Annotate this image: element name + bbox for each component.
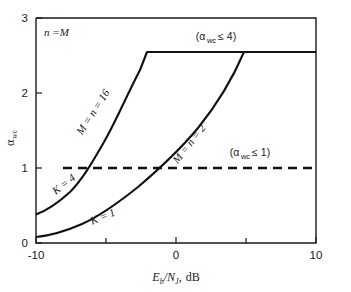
xlabel-comma: , <box>179 270 182 284</box>
le-4-text: ≤ 4) <box>218 30 236 42</box>
alpha-glyph-4: α <box>199 30 205 42</box>
y-axis-title: αwc <box>3 129 19 146</box>
le-1-text: ≤ 1) <box>252 146 270 158</box>
x-axis-title: Eb/NJ,dB <box>151 270 199 286</box>
figure-container: 0 1 2 3 -10 0 10 Eb/NJ,dB αwc n =M <box>0 0 351 292</box>
annotation-alpha-wc-le-4: (αwc≤ 4) <box>196 30 236 45</box>
svg-text:K = 4: K = 4 <box>49 171 78 197</box>
svg-text:K = 1: K = 1 <box>87 206 116 227</box>
curve-label-m-n-16: M = n = 16 <box>73 87 112 138</box>
y-tick-label-3: 3 <box>22 12 28 24</box>
svg-text:αwc: αwc <box>3 129 19 146</box>
alpha-glyph-1: α <box>233 146 239 158</box>
annotation-M: M <box>59 26 70 38</box>
curve-label-k-1: K = 1 <box>87 206 116 227</box>
x-tick-label-minus10: -10 <box>28 249 45 261</box>
annotation-alpha-wc-le-1: (αwc≤ 1) <box>230 146 270 161</box>
curve-label-k-4: K = 4 <box>49 171 78 197</box>
chart-canvas: 0 1 2 3 -10 0 10 Eb/NJ,dB αwc n =M <box>0 0 351 292</box>
x-axis-ticks <box>36 237 316 243</box>
wc-sub-4: wc <box>206 36 216 45</box>
svg-text:M = n = 16: M = n = 16 <box>73 87 112 138</box>
curve-m-n-2 <box>36 52 316 237</box>
annotation-eq: = <box>50 26 60 38</box>
y-tick-label-0: 0 <box>22 237 28 249</box>
y-tick-label-2: 2 <box>22 87 28 99</box>
y-axis-ticks <box>36 18 42 243</box>
label16-tail: = 16 <box>89 87 112 114</box>
ylabel-wc: wc <box>10 129 19 138</box>
svg-text:Eb/NJ,dB: Eb/NJ,dB <box>151 270 199 286</box>
k1-value: = 1 <box>95 206 117 224</box>
curve-label-m-n-2: M = n = 2 <box>169 121 208 166</box>
wc-sub-1: wc <box>240 152 250 161</box>
ylabel-alpha: α <box>3 139 17 146</box>
annotation-n-equals-M: n =M <box>44 26 70 38</box>
xlabel-dB: dB <box>186 270 200 284</box>
svg-text:M = n = 2: M = n = 2 <box>169 121 208 166</box>
x-tick-label-10: 10 <box>310 249 323 261</box>
x-tick-label-0: 0 <box>173 249 179 261</box>
y-tick-label-1: 1 <box>22 162 28 174</box>
